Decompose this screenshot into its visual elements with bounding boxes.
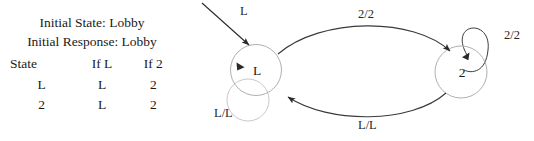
- transition-arc-2-to-l: [288, 93, 446, 117]
- cell-if-2: 2: [129, 75, 178, 96]
- state-label-2: 2: [449, 66, 475, 80]
- transition-label-2-to-l: L/L: [358, 119, 377, 132]
- initial-response-caption: Initial Response: Lobby: [2, 35, 182, 49]
- cell-state: L: [8, 75, 75, 96]
- self-loop-label-l: L/L: [214, 107, 233, 120]
- table-row: L L 2: [8, 75, 178, 96]
- cell-if-l: L: [75, 75, 128, 96]
- state-label-l: L: [244, 64, 270, 78]
- transition-label-l-to-2: 2/2: [358, 8, 374, 21]
- cell-state: 2: [8, 95, 75, 116]
- start-arrow-label: L: [240, 5, 248, 18]
- state-diagram-panel: L 2 L 2/2 L/L L/L 2/2: [196, 0, 534, 141]
- cell-if-l: L: [75, 95, 128, 116]
- transition-table-panel: Initial State: Lobby Initial Response: L…: [0, 0, 200, 141]
- table-header-row: State If L If 2: [8, 54, 178, 75]
- initial-state-caption: Initial State: Lobby: [2, 16, 182, 30]
- column-header-if-2: If 2: [129, 54, 178, 75]
- state-transition-table: State If L If 2 L L 2 2 L 2: [8, 54, 178, 116]
- self-loop-label-2: 2/2: [504, 29, 520, 42]
- column-header-if-l: If L: [75, 54, 128, 75]
- table-row: 2 L 2: [8, 95, 178, 116]
- column-header-state: State: [8, 54, 75, 75]
- transition-arc-l-to-2: [278, 26, 450, 54]
- cell-if-2: 2: [129, 95, 178, 116]
- fsm-figure: Initial State: Lobby Initial Response: L…: [0, 0, 534, 141]
